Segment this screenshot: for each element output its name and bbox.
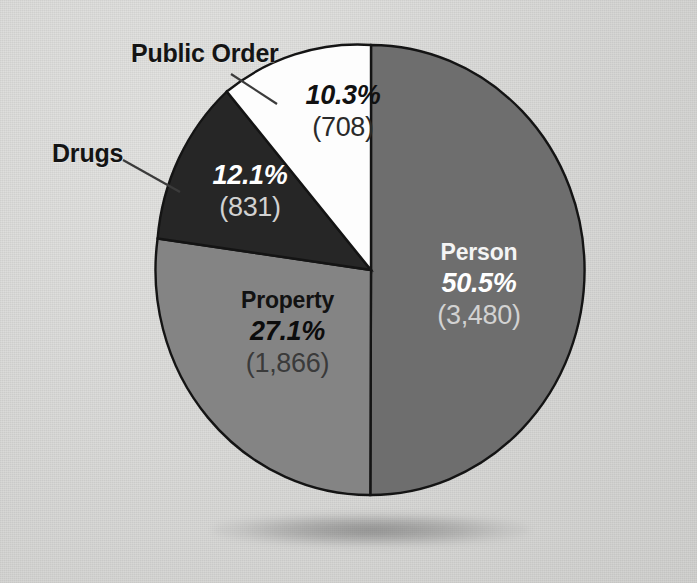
slice-name-person: Person <box>404 239 554 266</box>
slice-percent-public-order: 10.3% <box>278 80 408 111</box>
callout-label-public-order: Public Order <box>131 40 279 66</box>
slice-percent-property: 27.1% <box>215 316 360 347</box>
slice-name-property: Property <box>215 287 360 314</box>
slice-label-person: Person 50.5% (3,480) <box>404 239 554 331</box>
pie-chart-figure: Public Order Drugs 10.3% (708) 12.1% (83… <box>0 0 697 583</box>
callout-label-drugs: Drugs <box>52 140 123 166</box>
slice-count-drugs: (831) <box>185 192 315 223</box>
slice-label-property: Property 27.1% (1,866) <box>215 287 360 379</box>
slice-label-public-order: 10.3% (708) <box>278 78 408 143</box>
slice-count-person: (3,480) <box>404 300 554 331</box>
slice-count-property: (1,866) <box>215 348 360 379</box>
slice-percent-person: 50.5% <box>404 268 554 299</box>
slice-percent-drugs: 12.1% <box>185 160 315 191</box>
slice-label-drugs: 12.1% (831) <box>185 158 315 223</box>
slice-count-public-order: (708) <box>278 112 408 143</box>
